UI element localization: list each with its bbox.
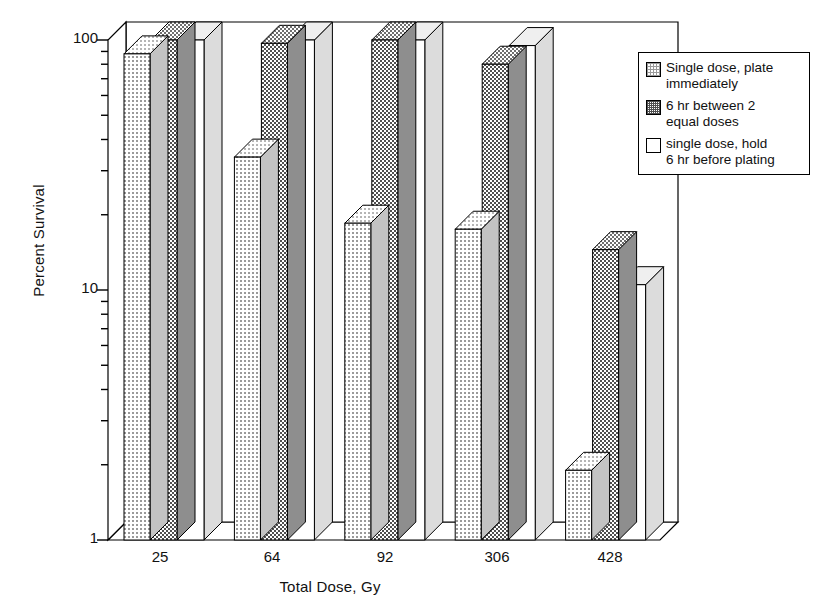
white-swatch (646, 138, 661, 153)
chart-canvas: Percent Survival Total Dose, Gy 100 10 1… (0, 0, 819, 608)
bar-428-series1[interactable] (566, 452, 610, 540)
plot-area (108, 40, 660, 540)
y-tick-label-100: 100 (52, 29, 98, 46)
y-axis-title: Percent Survival (30, 141, 47, 341)
y-tick-label-1: 1 (52, 529, 98, 546)
legend: Single dose, plate immediately 6 hr betw… (638, 52, 810, 175)
legend-item-2[interactable]: single dose, hold 6 hr before plating (646, 136, 803, 167)
bar-25-series1[interactable] (124, 36, 168, 540)
legend-label-0-line2: immediately (666, 76, 738, 91)
x-tick-label-1: 64 (237, 548, 307, 565)
bar-64-series1[interactable] (234, 139, 278, 540)
bars-svg (108, 40, 668, 546)
legend-item-0[interactable]: Single dose, plate immediately (646, 60, 803, 91)
legend-label-1-line1: 6 hr between 2 (666, 98, 755, 113)
x-tick-label-4: 428 (575, 548, 645, 565)
x-axis-title: Total Dose, Gy (0, 578, 660, 595)
x-tick-label-3: 306 (462, 548, 532, 565)
light-dotted-swatch (646, 62, 661, 77)
legend-label-1-line2: equal doses (666, 114, 739, 129)
bar-92-series1[interactable] (345, 205, 389, 540)
legend-label-2-line1: single dose, hold (666, 136, 767, 151)
y-tick-label-10: 10 (52, 279, 98, 296)
dark-checker-swatch (646, 100, 661, 115)
x-tick-label-2: 92 (350, 548, 420, 565)
legend-item-1[interactable]: 6 hr between 2 equal doses (646, 98, 803, 129)
x-tick-label-0: 25 (125, 548, 195, 565)
legend-label-0-line1: Single dose, plate (666, 60, 773, 75)
legend-label-2-line2: 6 hr before plating (666, 152, 775, 167)
bar-306-series1[interactable] (455, 211, 499, 540)
